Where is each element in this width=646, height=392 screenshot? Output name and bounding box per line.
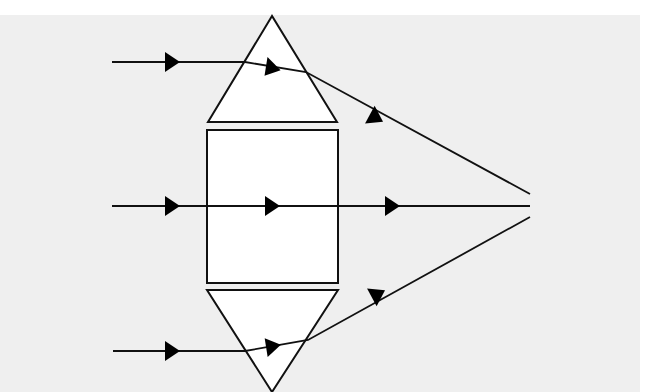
arrow-icon xyxy=(165,52,180,72)
arrow-icon xyxy=(165,341,180,361)
optics-diagram xyxy=(0,0,646,392)
arrow-icon xyxy=(367,281,390,306)
bottom-prism xyxy=(207,290,338,392)
arrow-icon xyxy=(365,106,388,131)
arrow-icon xyxy=(385,196,400,216)
arrow-icon xyxy=(165,196,180,216)
